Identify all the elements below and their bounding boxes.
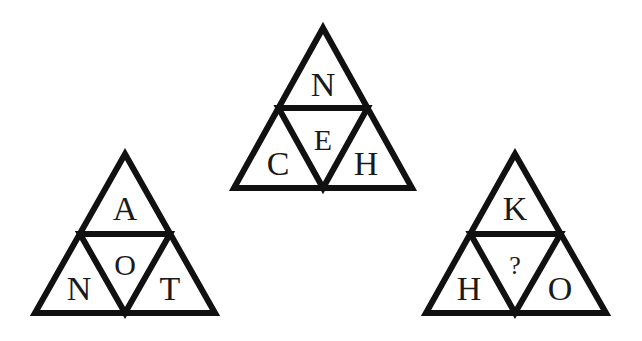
- triangle-right: K ? H O: [426, 154, 606, 313]
- letter-top: N: [311, 66, 336, 103]
- letter-right: H: [354, 145, 379, 182]
- letter-left: H: [457, 270, 482, 307]
- letter-triangle-puzzle: N E C H A O N T K ? H O: [0, 0, 642, 341]
- letter-top: K: [503, 190, 528, 227]
- letter-center: E: [314, 123, 332, 156]
- triangle-left: A O N T: [35, 154, 215, 313]
- triangle-top: N E C H: [234, 28, 412, 188]
- letter-left: C: [267, 145, 290, 182]
- letter-right: T: [160, 270, 181, 307]
- letter-center: O: [114, 248, 136, 281]
- letter-center-question-mark: ?: [509, 251, 521, 280]
- letter-left: N: [67, 270, 92, 307]
- letter-right: O: [548, 270, 573, 307]
- letter-top: A: [113, 190, 138, 227]
